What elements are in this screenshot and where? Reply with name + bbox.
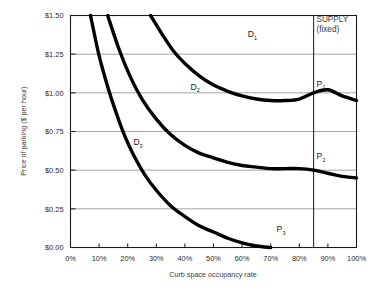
x-tick-labels-group: 0%10%20%30%40%50%60%70%80%90%100% (65, 254, 366, 263)
x-tick-label: 30% (149, 254, 164, 263)
curve-label-d2-subscript: 2 (197, 87, 200, 93)
x-axis-title: Curb space occupancy rate (169, 270, 257, 279)
y-tick-label: $1.00 (45, 89, 64, 98)
x-tick-label: 20% (120, 254, 135, 263)
y-tick-label: $0.00 (45, 243, 64, 252)
x-tick-label: 80% (292, 254, 307, 263)
chart-svg: 0%10%20%30%40%50%60%70%80%90%100% $0.00$… (0, 0, 381, 289)
price-label-p2-subscript: 2 (322, 157, 325, 163)
x-tick-label: 60% (235, 254, 250, 263)
y-axis-title: Price of parking ($ per hour) (19, 86, 28, 176)
x-tick-label: 100% (347, 254, 366, 263)
price-label-p1-subscript: 1 (322, 84, 325, 90)
price-label-p3-subscript: 3 (282, 230, 285, 236)
y-tick-marks-group (71, 16, 76, 248)
x-tick-label: 90% (321, 254, 336, 263)
y-tick-label: $0.50 (45, 166, 64, 175)
supply-label-line2: (fixed) (316, 25, 339, 34)
x-tick-label: 70% (263, 254, 278, 263)
y-tick-label: $0.75 (45, 127, 64, 136)
supply-label-line1: SUPPLY (316, 15, 348, 24)
y-tick-labels-group: $0.00$0.25$0.50$0.75$1.00$1.25$1.50 (45, 11, 64, 252)
curve-label-d1-subscript: 1 (254, 35, 257, 41)
x-tick-label: 40% (178, 254, 193, 263)
y-tick-label: $0.25 (45, 205, 64, 214)
curve-labels-group: D1D2D3 (133, 29, 257, 149)
x-tick-label: 50% (206, 254, 221, 263)
parking-demand-supply-chart: 0%10%20%30%40%50%60%70%80%90%100% $0.00$… (0, 0, 381, 289)
x-tick-label: 10% (92, 254, 107, 263)
y-tick-label: $1.50 (45, 11, 64, 20)
x-tick-label: 0% (65, 254, 76, 263)
y-tick-label: $1.25 (45, 50, 64, 59)
curve-label-d3-subscript: 3 (140, 143, 143, 149)
